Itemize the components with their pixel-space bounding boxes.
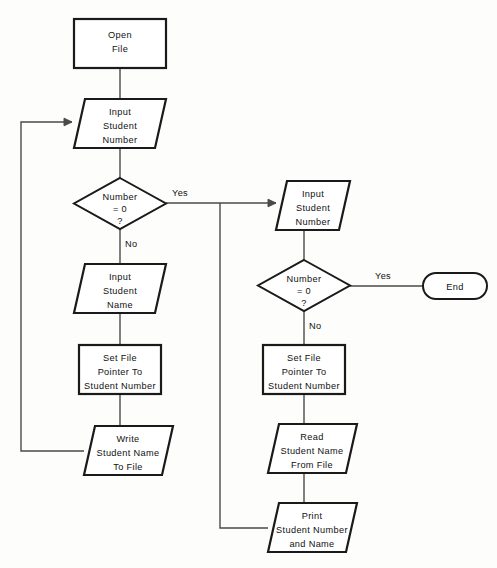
write-line1: Write: [116, 434, 139, 444]
read-line1: Read: [300, 432, 323, 442]
decision-right-line3: ?: [301, 298, 306, 308]
node-end-terminator[interactable]: End: [423, 273, 487, 299]
set-file-pointer-right-line1: Set File: [287, 353, 321, 363]
input-student-name-line1: Input: [109, 272, 131, 282]
node-write-student-name-to-file[interactable]: Write Student Name To File: [84, 426, 173, 475]
open-file-line1: Open: [108, 30, 132, 40]
write-line2: Student Name: [97, 448, 160, 458]
flowchart-canvas: Open File Input Student Number Number = …: [0, 0, 497, 568]
node-open-file[interactable]: Open File: [74, 19, 166, 68]
node-decision-number-zero-left[interactable]: Number = 0 ?: [74, 178, 166, 229]
edge-label-right-yes: Yes: [375, 271, 391, 281]
read-line3: From File: [291, 460, 333, 470]
print-line2: Student Number: [276, 525, 348, 535]
print-line3: and Name: [289, 539, 334, 549]
decision-right-line1: Number: [287, 274, 322, 284]
write-line3: To File: [113, 462, 143, 472]
node-input-student-number-right[interactable]: Input Student Number: [276, 181, 350, 230]
arrowhead-yes-into-input-right: [268, 199, 276, 207]
decision-left-line3: ?: [117, 216, 122, 226]
edge-label-right-no: No: [309, 321, 321, 331]
flowchart-svg: Open File Input Student Number Number = …: [0, 0, 497, 568]
node-input-student-name[interactable]: Input Student Name: [74, 264, 166, 313]
node-set-file-pointer-left[interactable]: Set File Pointer To Student Number: [79, 345, 161, 394]
set-file-pointer-left-line1: Set File: [103, 353, 137, 363]
decision-left-line1: Number: [103, 192, 138, 202]
node-input-student-number-left[interactable]: Input Student Number: [74, 99, 166, 148]
connector-yes-branch-down-to-print: [220, 203, 268, 528]
input-student-number-right-line3: Number: [296, 217, 331, 227]
input-student-number-left-line2: Student: [103, 121, 137, 131]
set-file-pointer-right-line3: Student Number: [268, 381, 340, 391]
edge-label-left-yes: Yes: [172, 188, 188, 198]
input-student-number-right-line2: Student: [296, 203, 330, 213]
input-student-name-line2: Student: [103, 286, 137, 296]
node-decision-number-zero-right[interactable]: Number = 0 ?: [258, 260, 350, 311]
decision-right-line2: = 0: [297, 286, 311, 296]
open-file-line2: File: [112, 44, 128, 54]
input-student-number-left-line1: Input: [109, 107, 131, 117]
input-student-number-left-line3: Number: [103, 135, 138, 145]
set-file-pointer-right-line2: Pointer To: [282, 367, 327, 377]
connector-write-loopback-to-input-left: [21, 122, 84, 451]
end-terminator-label: End: [446, 282, 463, 292]
arrowhead-loopback-into-input-left: [64, 118, 72, 126]
set-file-pointer-left-line2: Pointer To: [98, 367, 143, 377]
node-read-student-name-from-file[interactable]: Read Student Name From File: [268, 424, 357, 473]
node-print-student-number-and-name[interactable]: Print Student Number and Name: [268, 503, 357, 552]
set-file-pointer-left-line3: Student Number: [84, 381, 156, 391]
print-line1: Print: [302, 511, 323, 521]
edge-label-left-no: No: [125, 239, 137, 249]
node-set-file-pointer-right[interactable]: Set File Pointer To Student Number: [263, 345, 345, 394]
input-student-name-line3: Name: [107, 300, 133, 310]
read-line2: Student Name: [281, 446, 344, 456]
decision-left-line2: = 0: [113, 204, 127, 214]
input-student-number-right-line1: Input: [302, 189, 324, 199]
